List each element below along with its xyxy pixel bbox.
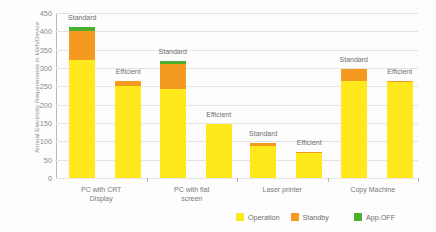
- y-axis-tick-label: 50: [6, 155, 52, 164]
- bar[interactable]: [387, 81, 413, 178]
- x-axis-group-divider: [328, 178, 329, 182]
- bar[interactable]: [115, 81, 141, 178]
- legend-item[interactable]: App.OFF: [354, 213, 395, 222]
- y-axis-tick-label: 250: [6, 82, 52, 91]
- bar-variant-label: Standard: [52, 14, 112, 21]
- y-axis-tick-label: 100: [6, 137, 52, 146]
- bar-variant-label: Efficient: [189, 111, 249, 118]
- bar-variant-label: Efficient: [98, 68, 158, 75]
- bar[interactable]: [160, 61, 186, 178]
- bar[interactable]: [206, 124, 232, 178]
- bar-segment-operation: [160, 89, 186, 178]
- bar-variant-label: Standard: [233, 130, 293, 137]
- bar[interactable]: [341, 69, 367, 178]
- legend-item[interactable]: Operation: [236, 213, 280, 222]
- legend-label: App.OFF: [366, 213, 395, 222]
- bar[interactable]: [69, 27, 95, 178]
- legend-label: Standby: [303, 213, 329, 222]
- x-axis-group-divider: [147, 178, 148, 182]
- y-axis-tick-label: 300: [6, 64, 52, 73]
- bar-variant-label: Efficient: [279, 139, 339, 146]
- bar-variant-label: Standard: [143, 48, 203, 55]
- x-axis-group-label-line: screen: [137, 195, 247, 204]
- plot-area: StandardEfficientStandardEfficientStanda…: [56, 13, 418, 178]
- y-axis-tick-labels: 450400350300250200150100500: [0, 0, 52, 232]
- bar-segment-operation: [387, 82, 413, 178]
- legend-label: Operation: [248, 213, 280, 222]
- bar-segment-operation: [250, 146, 276, 178]
- chart-legend: OperationStandbyApp.OFF: [236, 210, 406, 224]
- bar-variant-label: Efficient: [370, 68, 430, 75]
- y-axis-tick-label: 150: [6, 119, 52, 128]
- legend-swatch-icon: [291, 213, 299, 221]
- legend-item[interactable]: Standby: [291, 213, 329, 222]
- y-axis-tick-label: 200: [6, 100, 52, 109]
- bar[interactable]: [250, 143, 276, 178]
- y-axis-tick-label: 0: [6, 174, 52, 183]
- legend-swatch-icon: [354, 213, 362, 221]
- x-axis-group-divider: [418, 178, 419, 182]
- gridline: [56, 31, 418, 32]
- bar-segment-standby: [69, 31, 95, 60]
- y-axis-tick-label: 450: [6, 9, 52, 18]
- x-axis-group-label-line: Copy Machine: [318, 186, 428, 195]
- bar-segment-operation: [69, 60, 95, 178]
- bar-segment-operation: [341, 81, 367, 178]
- x-axis-group-divider: [237, 178, 238, 182]
- bar-variant-label: Standard: [324, 56, 384, 63]
- bar-chart: Annual Electricity Requirements in kWh/D…: [0, 0, 436, 232]
- bar-segment-operation: [296, 153, 322, 178]
- bar-segment-operation: [115, 86, 141, 178]
- bar[interactable]: [296, 152, 322, 178]
- bar-segment-standby: [160, 64, 186, 89]
- bar-segment-operation: [206, 124, 232, 178]
- x-axis-group-label: Copy Machine: [318, 186, 428, 195]
- y-axis-tick-label: 400: [6, 27, 52, 36]
- legend-swatch-icon: [236, 213, 244, 221]
- y-axis-tick-label: 350: [6, 45, 52, 54]
- bar-segment-standby: [341, 69, 367, 81]
- gridline: [56, 50, 418, 51]
